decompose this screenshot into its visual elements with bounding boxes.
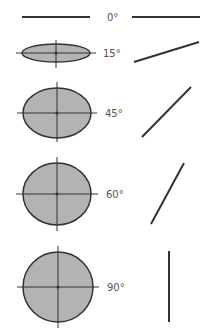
center-dot [56, 193, 59, 196]
angle-label: 60° [106, 189, 124, 200]
row-90-degrees: 90° [17, 246, 169, 328]
projected-line [134, 42, 199, 62]
angle-label: 15° [103, 48, 121, 59]
row-45-degrees: 45° [17, 82, 191, 142]
center-dot [55, 52, 58, 55]
center-dot [56, 112, 59, 115]
projected-line [142, 87, 191, 137]
center-dot [57, 286, 60, 289]
projected-line [151, 163, 184, 224]
row-15-degrees: 15° [16, 40, 199, 68]
angle-label: 90° [107, 282, 125, 293]
row-0-degrees: 0° [22, 12, 200, 23]
angle-projection-diagram: 0° 15° 45° 60° 90° [0, 0, 209, 336]
angle-label: 0° [107, 12, 118, 23]
row-60-degrees: 60° [16, 157, 184, 231]
angle-label: 45° [105, 108, 123, 119]
